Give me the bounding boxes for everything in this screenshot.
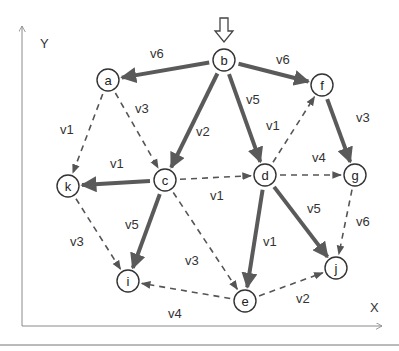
edges-layer bbox=[73, 63, 352, 299]
edge-label-b-f: v6 bbox=[276, 52, 290, 67]
node-a: a bbox=[97, 69, 119, 91]
edge-b-c bbox=[171, 74, 217, 168]
edge-label-b-a: v6 bbox=[150, 46, 164, 61]
start-arrow-icon bbox=[215, 18, 233, 42]
node-d: d bbox=[254, 164, 276, 186]
edge-e-i bbox=[142, 283, 230, 298]
edge-label-g-j: v6 bbox=[356, 214, 370, 229]
node-label: c bbox=[162, 173, 169, 188]
edge-label-b-d: v5 bbox=[246, 92, 260, 107]
node-g: g bbox=[344, 164, 366, 186]
edge-c-k bbox=[82, 181, 150, 185]
edge-d-j bbox=[274, 187, 327, 257]
edge-label-d-f: v1 bbox=[266, 118, 280, 133]
node-label: e bbox=[241, 294, 248, 309]
node-e: e bbox=[234, 290, 256, 312]
node-k: k bbox=[57, 175, 79, 197]
edge-label-e-i: v4 bbox=[168, 306, 182, 321]
edge-g-j bbox=[339, 190, 352, 255]
y-axis-label: Y bbox=[40, 36, 49, 51]
node-b: b bbox=[213, 49, 235, 71]
node-label: b bbox=[220, 53, 227, 68]
edge-a-k bbox=[73, 94, 103, 173]
edge-label-d-g: v4 bbox=[312, 150, 326, 165]
edge-f-g bbox=[327, 99, 350, 162]
node-label: j bbox=[334, 261, 338, 276]
edge-label-c-k: v1 bbox=[110, 156, 124, 171]
edge-d-e bbox=[247, 190, 262, 287]
edge-label-b-c: v2 bbox=[196, 124, 210, 139]
edge-label-c-i: v5 bbox=[125, 217, 139, 232]
edge-label-d-e: v1 bbox=[263, 234, 277, 249]
edge-label-d-j: v5 bbox=[307, 201, 321, 216]
node-i: i bbox=[117, 270, 139, 292]
edge-label-k-i: v3 bbox=[70, 234, 84, 249]
edge-e-j bbox=[259, 273, 323, 296]
edge-b-f bbox=[239, 64, 309, 82]
edge-c-e bbox=[173, 193, 237, 290]
edge-label-a-c: v3 bbox=[135, 101, 149, 116]
edge-label-c-e: v3 bbox=[185, 253, 199, 268]
edge-b-a bbox=[122, 63, 209, 78]
x-axis-label: X bbox=[370, 300, 379, 315]
node-label: a bbox=[104, 73, 112, 88]
node-label: d bbox=[261, 168, 268, 183]
edge-b-d bbox=[229, 74, 260, 162]
edge-label-a-k: v1 bbox=[60, 122, 74, 137]
edge-label-f-g: v3 bbox=[356, 110, 370, 125]
node-f: f bbox=[311, 74, 333, 96]
edge-label-e-j: v2 bbox=[296, 291, 310, 306]
node-label: g bbox=[351, 168, 358, 183]
graph-diagram: Y X v6v6v2v5v1v3v1v3v1v1v4v5v3v3v1v5v6v4… bbox=[0, 0, 399, 351]
node-label: i bbox=[127, 274, 130, 289]
edge-label-c-d: v1 bbox=[210, 188, 224, 203]
node-c: c bbox=[154, 169, 176, 191]
node-label: k bbox=[65, 179, 72, 194]
node-j: j bbox=[325, 257, 347, 279]
node-label: f bbox=[320, 78, 324, 93]
edge-c-d bbox=[180, 176, 251, 180]
